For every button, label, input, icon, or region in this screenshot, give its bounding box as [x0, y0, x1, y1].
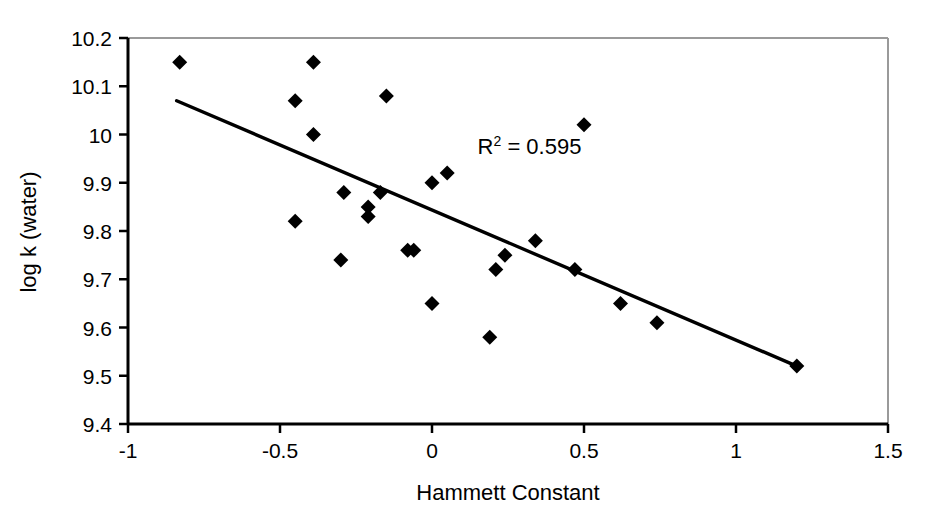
x-tick-label: -1	[119, 439, 138, 462]
x-tick-label: 0	[426, 439, 438, 462]
chart-figure: 9.49.59.69.79.89.91010.110.2 -1-0.500.51…	[0, 0, 937, 527]
y-tick-label: 9.8	[83, 220, 112, 243]
scatter-plot-canvas: 9.49.59.69.79.89.91010.110.2 -1-0.500.51…	[0, 0, 937, 527]
y-tick-label: 10	[89, 124, 112, 147]
y-tick-label: 9.4	[83, 413, 113, 436]
y-tick-label: 10.1	[71, 75, 112, 98]
r-squared-annotation: R2 = 0.595	[478, 133, 582, 159]
y-tick-label: 9.7	[83, 268, 112, 291]
x-tick-label: -0.5	[262, 439, 298, 462]
y-axis-title: log k (water)	[16, 171, 41, 292]
x-tick-label: 1.5	[873, 439, 902, 462]
y-tick-label: 9.6	[83, 317, 112, 340]
x-tick-label: 0.5	[569, 439, 598, 462]
y-tick-label: 9.9	[83, 172, 112, 195]
x-axis-title: Hammett Constant	[416, 480, 599, 505]
y-tick-label: 10.2	[71, 27, 112, 50]
plot-background	[0, 0, 937, 527]
y-tick-label: 9.5	[83, 365, 112, 388]
x-tick-label: 1	[730, 439, 742, 462]
